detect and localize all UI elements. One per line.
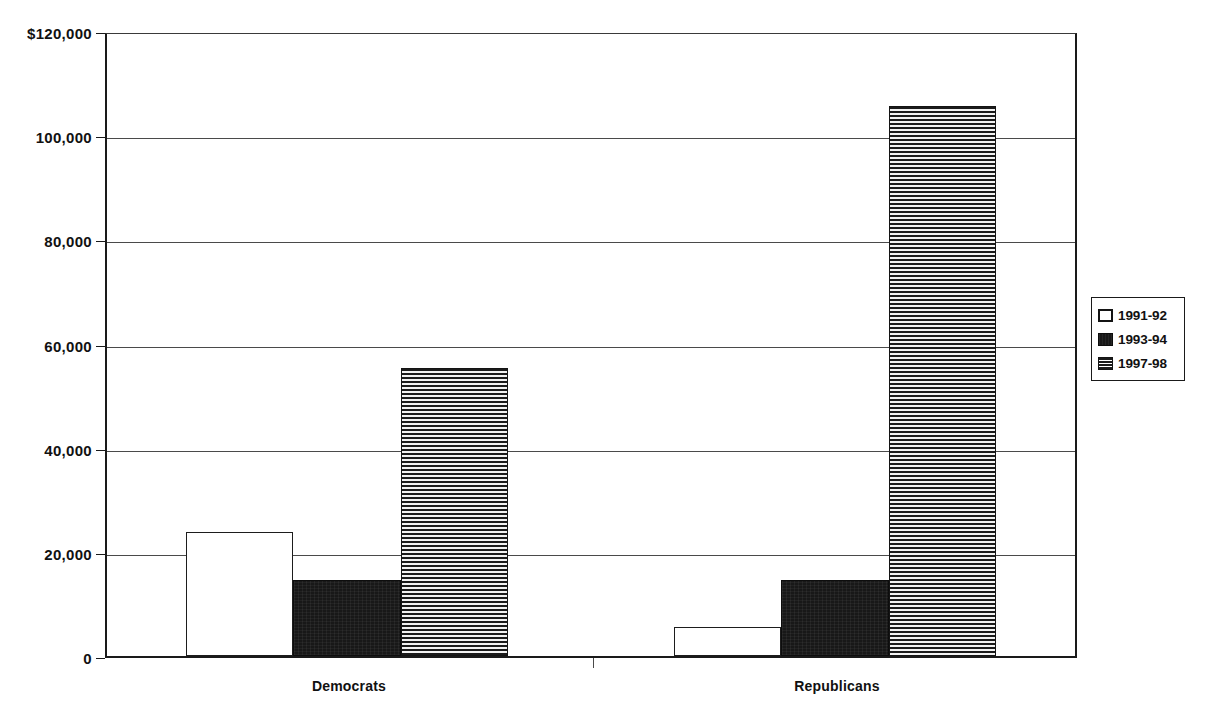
plot-area xyxy=(105,33,1077,658)
legend-swatch-solid-icon xyxy=(1098,333,1113,346)
bar-democrats-1993-94 xyxy=(293,580,401,656)
legend-item-1997-98: 1997-98 xyxy=(1098,351,1180,375)
y-axis-tick-mark xyxy=(96,658,105,659)
bar-republicans-1997-98 xyxy=(889,106,996,656)
category-separator-tick xyxy=(593,658,594,668)
bar-democrats-1997-98 xyxy=(401,368,508,656)
bar-republicans-1993-94 xyxy=(781,580,889,656)
y-axis-tick-label: 40,000 xyxy=(0,442,92,459)
y-axis-tick-mark xyxy=(96,241,105,242)
legend-item-1993-94: 1993-94 xyxy=(1098,327,1180,351)
legend-swatch-striped-icon xyxy=(1098,357,1113,370)
y-axis-tick-label: 0 xyxy=(0,650,92,667)
y-axis-tick-label: 100,000 xyxy=(0,129,92,146)
y-axis-tick-mark xyxy=(96,554,105,555)
y-axis-tick-mark xyxy=(96,346,105,347)
y-axis-tick-label: 20,000 xyxy=(0,546,92,563)
legend-label: 1993-94 xyxy=(1118,332,1167,347)
y-axis-tick-mark xyxy=(96,450,105,451)
y-axis-tick-mark xyxy=(96,33,105,34)
legend-label: 1991-92 xyxy=(1118,308,1167,323)
y-axis-tick-label: $120,000 xyxy=(0,25,92,42)
x-axis-label-democrats: Democrats xyxy=(312,678,386,694)
bar-republicans-1991-92 xyxy=(674,627,781,656)
bar-chart: $120,000 100,000 80,000 60,000 40,000 20… xyxy=(0,0,1205,710)
y-axis-tick-label: 60,000 xyxy=(0,338,92,355)
y-axis-tick-mark xyxy=(96,137,105,138)
chart-legend: 1991-92 1993-94 1997-98 xyxy=(1091,297,1185,381)
legend-label: 1997-98 xyxy=(1118,356,1167,371)
bar-democrats-1991-92 xyxy=(186,532,293,656)
legend-item-1991-92: 1991-92 xyxy=(1098,303,1180,327)
x-axis-label-republicans: Republicans xyxy=(794,678,879,694)
legend-swatch-empty-icon xyxy=(1098,309,1113,322)
y-axis-tick-label: 80,000 xyxy=(0,233,92,250)
